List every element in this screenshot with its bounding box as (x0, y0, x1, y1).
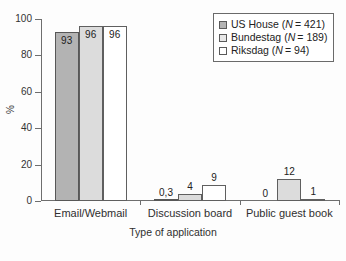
bar (301, 199, 325, 201)
bar (79, 26, 103, 201)
legend-item-us-house: US House (N = 421) (219, 18, 327, 31)
bar-value-label: 9 (202, 173, 226, 183)
x-axis-tick (339, 200, 340, 205)
legend: US House (N = 421) Bundestag (N = 189) R… (213, 13, 334, 62)
legend-swatch-icon-bundestag (219, 34, 227, 42)
legend-swatch-icon-us-house (219, 21, 227, 29)
y-axis-tick-label: 100 (2, 14, 32, 24)
bar-value-label: 0 (253, 189, 277, 199)
bar (178, 194, 202, 201)
bar (103, 26, 127, 201)
y-axis-tick-label: 80 (2, 50, 32, 60)
bar (55, 32, 79, 201)
x-axis-category-label: Email/Webmail (41, 207, 140, 220)
legend-label-us-house: US House (N = 421) (231, 19, 325, 30)
legend-label-riksdag: Riksdag (N = 94) (231, 45, 309, 56)
x-axis-title: Type of application (0, 226, 346, 238)
legend-item-bundestag: Bundestag (N = 189) (219, 31, 327, 44)
y-axis-title: % (5, 95, 16, 125)
y-axis-tick (35, 201, 41, 202)
legend-swatch-icon-riksdag (219, 47, 227, 55)
y-axis-tick-label: 20 (2, 160, 32, 170)
bar-value-label: 1 (301, 187, 325, 197)
bar (154, 199, 178, 201)
bar-value-label: 96 (79, 30, 103, 40)
legend-item-riksdag: Riksdag (N = 94) (219, 44, 327, 57)
bar-chart: 020406080100 % 9396960,3490121 Email/Web… (0, 0, 346, 261)
x-axis-tick (240, 200, 241, 205)
bar-value-label: 12 (277, 167, 301, 177)
legend-label-bundestag: Bundestag (N = 189) (231, 32, 327, 43)
y-axis-tick-label: 40 (2, 123, 32, 133)
y-axis-tick-label: 0 (2, 196, 32, 206)
bar (277, 179, 301, 201)
bar-value-label: 4 (178, 182, 202, 192)
x-axis-tick (140, 200, 141, 205)
x-axis-category-label: Discussion board (140, 207, 239, 220)
bar (202, 185, 226, 201)
x-axis-category-label: Public guest book (240, 207, 339, 220)
bar-value-label: 0,3 (154, 188, 178, 198)
bar-value-label: 96 (103, 30, 127, 40)
bar-value-label: 93 (55, 36, 79, 46)
